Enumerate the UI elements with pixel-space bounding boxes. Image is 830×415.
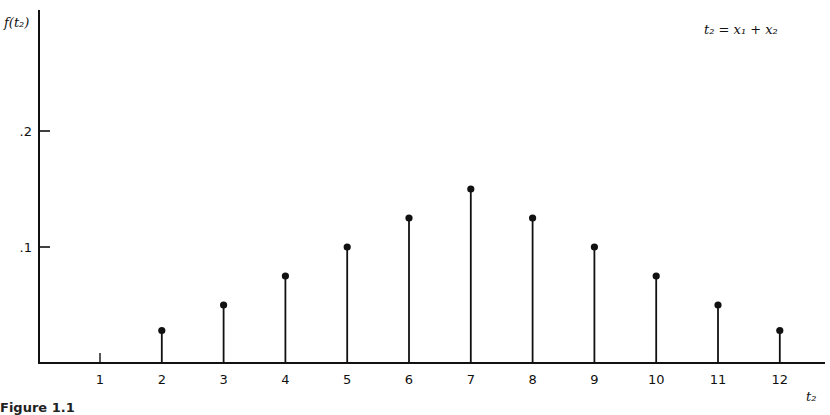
y-tick-label: .1 bbox=[20, 240, 32, 255]
stem-point bbox=[220, 301, 227, 308]
stem-point bbox=[653, 272, 660, 279]
stem-point bbox=[158, 327, 165, 334]
stem-point bbox=[467, 185, 474, 192]
stem-point bbox=[529, 214, 536, 221]
y-axis-label: f(t₂) bbox=[3, 15, 29, 30]
data-stems bbox=[158, 185, 783, 363]
figure-caption: Figure 1.1 bbox=[0, 400, 75, 415]
x-tick-label: 3 bbox=[219, 372, 227, 387]
stem-point bbox=[344, 243, 351, 250]
x-tick-label: 12 bbox=[772, 372, 789, 387]
stem-point bbox=[405, 214, 412, 221]
x-tick-label: 6 bbox=[405, 372, 413, 387]
x-tick-label: 11 bbox=[710, 372, 727, 387]
y-ticks: .1.2 bbox=[20, 124, 50, 255]
stem-point bbox=[282, 272, 289, 279]
x-tick-label: 7 bbox=[467, 372, 475, 387]
y-tick-label: .2 bbox=[20, 124, 32, 139]
x-tick-label: 5 bbox=[343, 372, 351, 387]
x-tick-label: 1 bbox=[96, 372, 104, 387]
stem-point bbox=[714, 301, 721, 308]
x-axis-label: t₂ bbox=[806, 389, 816, 404]
stem-point bbox=[591, 243, 598, 250]
stem-point bbox=[776, 327, 783, 334]
x-tick-label: 8 bbox=[528, 372, 536, 387]
equation-annotation: t₂ = x₁ + x₂ bbox=[704, 22, 778, 37]
x-tick-label: 4 bbox=[281, 372, 289, 387]
x-ticks: 123456789101112 bbox=[96, 353, 788, 387]
x-tick-label: 10 bbox=[648, 372, 665, 387]
x-tick-label: 9 bbox=[590, 372, 598, 387]
x-tick-label: 2 bbox=[158, 372, 166, 387]
axes bbox=[38, 10, 825, 364]
